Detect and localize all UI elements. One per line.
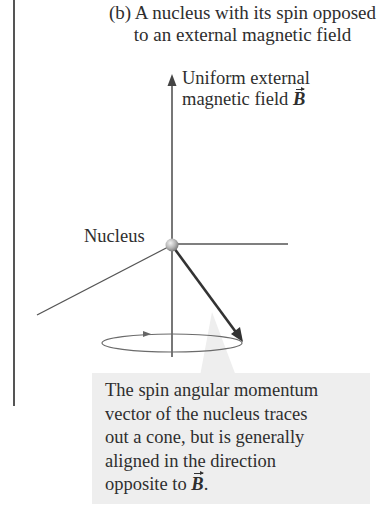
- b-vector-symbol: B: [293, 89, 305, 110]
- callout-pointer: [200, 312, 236, 376]
- precession-direction-arrow-icon: [143, 331, 151, 337]
- callout-text: The spin angular momentum vector of the …: [105, 379, 318, 497]
- field-label: Uniform external magnetic field B: [182, 68, 310, 110]
- field-label-text: magnetic field: [182, 89, 293, 109]
- callout-line-3: out a cone, but is generally: [105, 426, 318, 450]
- y-axis-line: [37, 245, 172, 315]
- callout-line-5: opposite to B.: [105, 473, 318, 497]
- nucleus-sphere-icon: [166, 239, 179, 252]
- callout-line-2: vector of the nucleus traces: [105, 403, 318, 427]
- nucleus-label: Nucleus: [84, 226, 145, 247]
- field-label-line-1: Uniform external: [182, 68, 310, 89]
- callout-box: The spin angular momentum vector of the …: [92, 373, 370, 504]
- callout-line-1: The spin angular momentum: [105, 379, 318, 403]
- field-arrow-head-icon: [168, 74, 177, 86]
- callout-line-5-period: .: [204, 474, 209, 494]
- spin-vector-line: [174, 248, 238, 335]
- field-label-line-2: magnetic field B: [182, 89, 310, 110]
- b-vector-symbol: B: [191, 473, 203, 497]
- callout-line-5-text: opposite to: [105, 474, 191, 494]
- callout-line-4: aligned in the direction: [105, 450, 318, 474]
